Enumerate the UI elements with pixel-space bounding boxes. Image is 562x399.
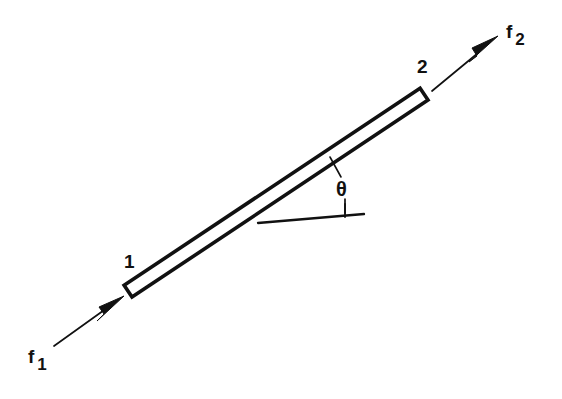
figure-root: 1 2 f1 f2 θ: [0, 0, 562, 399]
node-1-label: 1: [124, 252, 135, 271]
force-2-subscript: 2: [515, 30, 524, 49]
diagram-canvas: [0, 0, 562, 399]
force-1-label: f1: [28, 347, 44, 366]
force-2-symbol: f: [506, 21, 512, 42]
angle-theta-label: θ: [336, 179, 347, 199]
force-1-symbol: f: [28, 346, 34, 367]
force-2-label: f2: [506, 22, 522, 41]
node-2-label: 2: [417, 57, 428, 76]
force-1-subscript: 1: [37, 355, 46, 374]
